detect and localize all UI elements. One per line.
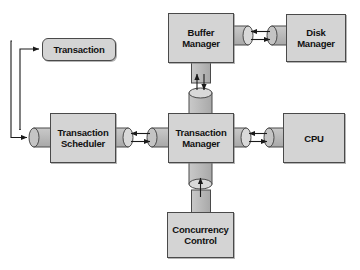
diagram-canvas: Buffer Manager Disk Manager Transaction … — [0, 0, 360, 270]
pipe-transaction-manager-up — [189, 88, 212, 114]
label-line-1: Concurrency — [170, 224, 230, 235]
node-transaction[interactable]: Transaction — [42, 38, 116, 61]
pipe-transaction-manager-right — [232, 128, 251, 147]
label-line-2: Control — [170, 235, 230, 246]
label-line-1: Transaction — [51, 44, 106, 55]
label-line-2: Manager — [180, 38, 222, 49]
label-line-2: Manager — [295, 38, 337, 49]
pipe-buffer-manager-down — [192, 62, 211, 83]
node-transaction-manager[interactable]: Transaction Manager — [168, 113, 234, 163]
label-line-2: Manager — [173, 138, 228, 149]
pipe-cpu-left — [264, 128, 285, 147]
label-line-1: Disk — [295, 27, 337, 38]
route-transaction-to-scheduler — [11, 42, 27, 138]
pipe-buffer-manager-right — [232, 26, 253, 45]
label-line-1: Transaction — [173, 127, 228, 138]
node-disk-manager[interactable]: Disk Manager — [286, 14, 346, 62]
node-transaction-manager-label: Transaction Manager — [171, 127, 230, 149]
pipe-transaction-manager-left — [147, 128, 169, 147]
route-left-rail-top — [11, 41, 12, 42]
node-cpu-label: CPU — [300, 133, 327, 144]
node-buffer-manager[interactable]: Buffer Manager — [168, 13, 234, 63]
pipe-disk-manager-left — [267, 26, 288, 45]
node-cpu[interactable]: CPU — [283, 113, 345, 163]
node-concurrency-control-label: Concurrency Control — [168, 224, 232, 246]
pipe-scheduler-right — [114, 128, 133, 147]
label-line-2: Scheduler — [55, 138, 110, 149]
route-scheduler-to-transaction — [20, 49, 39, 130]
label-line-1: Transaction — [55, 127, 110, 138]
node-transaction-scheduler[interactable]: Transaction Scheduler — [50, 113, 116, 163]
node-concurrency-control[interactable]: Concurrency Control — [167, 212, 234, 258]
label-line-1: CPU — [302, 133, 325, 144]
node-buffer-manager-label: Buffer Manager — [178, 27, 224, 49]
node-transaction-scheduler-label: Transaction Scheduler — [53, 127, 112, 149]
label-line-1: Buffer — [180, 27, 222, 38]
node-transaction-label: Transaction — [49, 44, 108, 55]
pipe-scheduler-left — [29, 128, 51, 147]
node-disk-manager-label: Disk Manager — [293, 27, 339, 49]
